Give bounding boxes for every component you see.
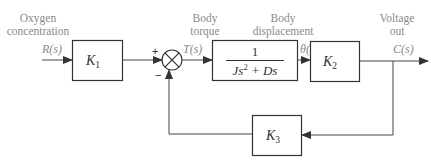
torque-description: Body — [193, 12, 218, 25]
input-description-line2: concentration — [7, 25, 70, 37]
output-description: Voltage — [380, 12, 415, 25]
summing-junction — [162, 50, 182, 70]
k3-block: K3 — [253, 116, 302, 156]
minus-sign: − — [155, 69, 161, 81]
output-description-line2: out — [390, 25, 406, 37]
torque-signal-label: T(s) — [183, 42, 202, 56]
input-signal-label: R(s) — [41, 42, 62, 56]
plant-denominator: Js2 + Ds — [233, 62, 278, 78]
displacement-description-line2: displacement — [253, 25, 314, 38]
displacement-description: Body — [271, 12, 296, 25]
plant-block: 1 Js2 + Ds — [213, 41, 298, 81]
k1-block: K1 — [73, 41, 123, 81]
k2-block: K2 — [311, 42, 360, 82]
plus-sign: + — [152, 45, 158, 57]
plant-numerator: 1 — [252, 44, 259, 59]
input-description: Oxygen — [20, 12, 57, 25]
block-diagram: Oxygen concentration Body torque Body di… — [0, 0, 445, 165]
torque-description-line2: torque — [190, 25, 219, 38]
output-signal-label: C(s) — [393, 42, 414, 56]
